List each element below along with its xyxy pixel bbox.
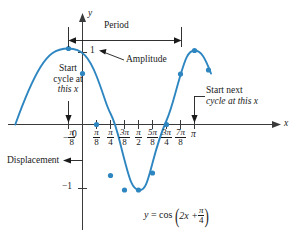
equation-function: cos: [159, 209, 172, 220]
period-arrow-left: [69, 37, 77, 43]
period-label: Period: [104, 20, 129, 31]
x-tick-label-zero: 0: [72, 129, 77, 140]
x-axis-label: x: [284, 118, 288, 129]
period-arrow-right: [174, 37, 182, 43]
frac-den: 2: [135, 137, 142, 147]
start-cycle-line-3: this x: [36, 84, 100, 95]
data-point: [136, 187, 141, 192]
frac-num: π: [93, 128, 100, 137]
displacement-label: Displacement: [7, 155, 59, 166]
start-next-cycle-leader: [191, 96, 205, 123]
x-axis-arrowhead: [272, 121, 281, 128]
start-next-cycle-annotation: Start next cycle at this x: [206, 85, 258, 106]
trig-graph-figure: y x 1 −1 −π8 0 π8 π4 3π8 π2 5π8 3π4 7π8 …: [0, 0, 298, 238]
data-point: [206, 67, 211, 72]
x-tick-label-neg-pi-8: −π8: [55, 128, 83, 147]
start-cycle-annotation: Start cycle at this x: [36, 63, 100, 95]
data-point: [178, 71, 183, 76]
equation-open-paren: (: [175, 205, 179, 226]
data-point: [150, 170, 155, 175]
start-cycle-leader: [65, 101, 71, 123]
graph-canvas: [0, 0, 298, 238]
frac-den: 8: [119, 137, 130, 147]
amplitude-leader: [99, 49, 124, 60]
frac-den: 8: [93, 137, 100, 147]
axes-group: [8, 13, 281, 230]
frac-num: 3π: [119, 128, 130, 137]
x-tick-label-pi: π: [191, 129, 196, 140]
equation-argument: 2x +: [179, 210, 198, 221]
equation-label: y = cos (2x +π4): [144, 206, 209, 225]
data-point: [122, 187, 127, 192]
data-point: [192, 48, 197, 53]
y-axis-arrowhead: [79, 13, 86, 22]
start-next-cycle-line-2: cycle at this x: [206, 96, 258, 107]
y-axis-label: y: [88, 8, 92, 19]
start-cycle-line-1: Start: [36, 63, 100, 74]
displacement-leader: [63, 157, 83, 163]
y-tick-label-minus1: −1: [62, 181, 72, 192]
start-cycle-line-2: cycle at: [36, 74, 100, 85]
x-tick-label-7pi-8: 7π8: [171, 128, 190, 147]
frac-num: π: [107, 128, 114, 137]
frac-den: 8: [175, 137, 186, 147]
y-tick-label-1: 1: [90, 45, 95, 56]
frac-num: 7π: [175, 128, 186, 137]
equation-equals: =: [151, 209, 157, 220]
frac-den: 4: [107, 137, 114, 147]
equation-close-paren: ): [204, 205, 208, 226]
frac-num: π: [135, 128, 142, 137]
start-next-cycle-line-1: Start next: [206, 85, 258, 96]
data-point: [108, 173, 113, 178]
equation-lhs: y: [144, 209, 148, 220]
amplitude-label: Amplitude: [126, 54, 167, 65]
